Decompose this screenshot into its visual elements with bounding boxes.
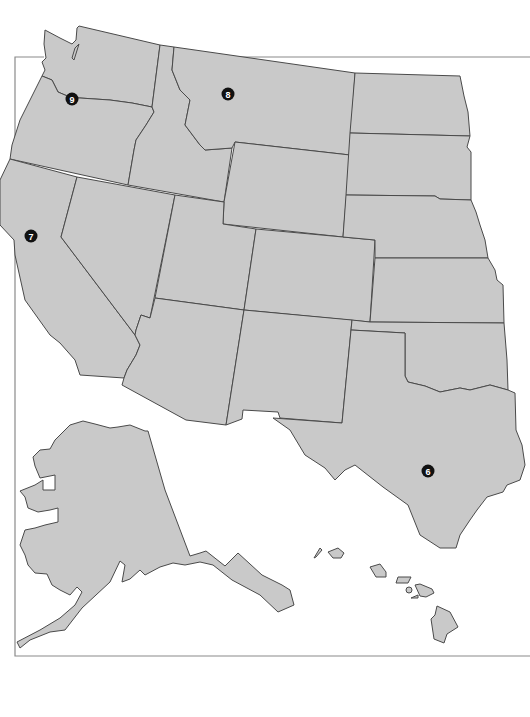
hawaii-big-island — [431, 606, 458, 643]
marker-9-label: 9 — [69, 95, 74, 105]
hawaii-niihau — [314, 548, 322, 558]
state-montana[interactable] — [172, 47, 355, 155]
marker-6-label: 6 — [425, 467, 430, 477]
state-north-dakota[interactable] — [350, 73, 470, 136]
state-arizona[interactable] — [122, 298, 244, 425]
marker-6[interactable]: 6 — [422, 465, 435, 478]
hawaii-kahoolawe — [411, 595, 418, 598]
marker-8[interactable]: 8 — [222, 88, 235, 101]
marker-8-label: 8 — [225, 90, 230, 100]
state-wyoming[interactable] — [223, 142, 350, 237]
hawaii-kauai — [328, 548, 344, 558]
state-new-mexico[interactable] — [226, 310, 352, 425]
western-us-map: 6 7 8 9 — [0, 0, 530, 717]
state-hawaii[interactable] — [314, 548, 458, 643]
hawaii-molokai — [396, 577, 411, 583]
state-kansas[interactable] — [370, 258, 504, 323]
state-alaska[interactable] — [17, 421, 294, 648]
hawaii-lanai — [406, 587, 412, 593]
marker-7-label: 7 — [28, 232, 33, 242]
marker-9[interactable]: 9 — [66, 93, 79, 106]
state-south-dakota[interactable] — [346, 133, 471, 200]
state-colorado[interactable] — [244, 229, 375, 322]
marker-7[interactable]: 7 — [25, 230, 38, 243]
hawaii-oahu — [370, 564, 386, 577]
